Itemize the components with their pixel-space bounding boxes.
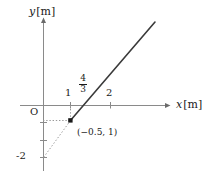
fraction-denominator: 3 [76,85,90,94]
solid-line-segment [70,22,155,121]
dotted-line-extension [44,121,71,158]
x-axis-label-unit: [m] [183,98,202,111]
y-axis-label-unit: [m] [36,5,55,18]
figure-canvas: y [m] x [m] O 1 2 4 3 -2 (−0.5, 1) [0,0,207,172]
x-tick-label-2: 2 [106,88,112,98]
fraction-numerator: 4 [76,74,90,83]
x-axis-label: x [m] [176,99,202,110]
data-point-marker [68,118,72,122]
plot-svg [0,0,207,172]
x-intercept-fraction-label: 4 3 [76,74,90,95]
y-axis-label: y [m] [29,6,55,17]
y-tick-label-neg2: -2 [16,151,26,161]
x-tick-label-1: 1 [65,88,71,98]
origin-label: O [30,107,38,117]
data-point-label: (−0.5, 1) [77,128,117,137]
